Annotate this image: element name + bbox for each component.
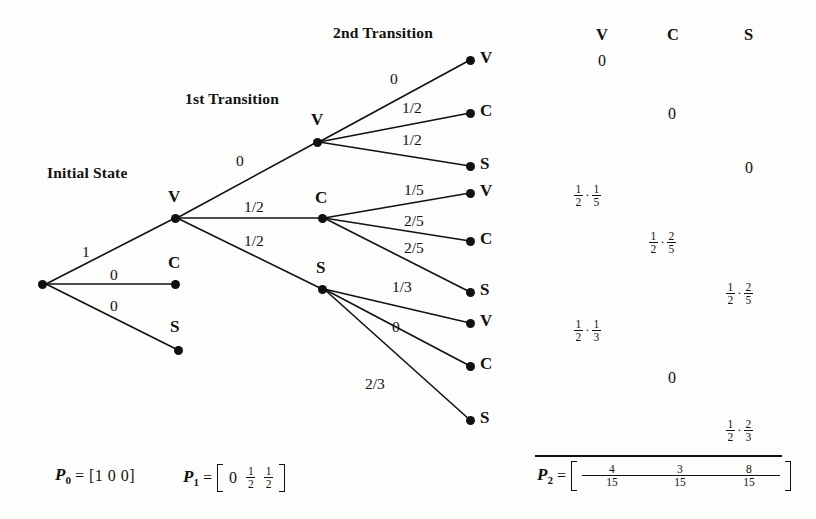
edge-label-CV: 1/5 (404, 182, 424, 198)
figure-canvas: Initial State 1st Transition 2nd Transit… (0, 0, 816, 519)
multiply-dot: · (583, 322, 592, 338)
edge-label-SV: 1/3 (392, 279, 412, 295)
edge-label-VS: 1/2 (402, 132, 422, 148)
edge-label-VV: 0 (390, 71, 398, 87)
table-cell-CV: 1 2 · 1 5 (574, 183, 601, 209)
fraction-two-thirds: 2 3 (744, 418, 753, 444)
vector-p2-entry-1: 3 15 (642, 463, 718, 489)
heading-initial-state: Initial State (47, 165, 128, 181)
leaf-label-SS: S (480, 409, 489, 426)
node-leaf-CV (466, 189, 475, 198)
equals-sign: = (553, 467, 571, 485)
fraction-fifth: 1 5 (592, 183, 601, 209)
fraction-half: 1 2 (574, 183, 583, 209)
edge-label-V-V: 0 (236, 153, 244, 169)
tree-edges (0, 0, 816, 519)
vector-p1-entry-0: 0 (229, 469, 238, 487)
edge-root-S (46, 284, 178, 350)
node-leaf-SS (466, 416, 475, 425)
node-leaf-VS (466, 162, 475, 171)
fraction-half: 1 2 (574, 318, 583, 344)
leaf-label-VS: S (480, 155, 489, 172)
node-leaf-VC (466, 109, 475, 118)
table-cell-VS: 0 (745, 160, 753, 176)
leaf-label-CV: V (480, 182, 492, 199)
node-leaf-SC (466, 362, 475, 371)
edge-label-root-C: 0 (110, 267, 118, 283)
edge-VS (319, 142, 470, 166)
edge-CV (324, 193, 470, 218)
node-root (38, 280, 47, 289)
vector-p2: P2 = 4 15 3 15 8 15 (537, 461, 791, 491)
edge-label-VC: 1/2 (402, 100, 422, 116)
state-label-l2-V: V (311, 111, 323, 128)
state-label-l1-S: S (170, 318, 179, 335)
state-label-l2-S: S (316, 259, 325, 276)
equals-sign: = (199, 469, 217, 487)
table-cell-SC: 0 (668, 370, 676, 386)
table-column-header-S: S (744, 27, 753, 44)
vector-p2-name: P2 (537, 465, 553, 486)
equals-sign: = (71, 467, 89, 485)
edge-label-V-C: 1/2 (244, 199, 264, 215)
vector-p0-name: P0 (55, 465, 71, 486)
node-leaf-VV (466, 56, 475, 65)
vector-p0: P0 = [1 0 0] (55, 465, 135, 486)
table-cell-VC: 0 (668, 106, 676, 122)
leaf-label-CC: C (480, 230, 492, 247)
leaf-label-SC: C (480, 355, 492, 372)
fraction-half: 1 2 (726, 418, 735, 444)
edge-label-root-V: 1 (82, 244, 90, 260)
edge-label-SC: 0 (392, 319, 400, 335)
table-cell-CC: 1 2 · 2 5 (649, 230, 676, 256)
node-l2-S (318, 285, 327, 294)
multiply-dot: · (735, 285, 744, 301)
edge-label-SS: 2/3 (365, 376, 385, 392)
node-l1-C (171, 280, 180, 289)
node-leaf-CC (466, 237, 475, 246)
fraction-half: 1 2 (649, 230, 658, 256)
vector-p1-entry-2: 1 2 (264, 465, 273, 491)
vector-p1-name: P1 (183, 467, 199, 488)
edge-V-S (177, 218, 322, 289)
fraction-two-fifths: 2 5 (667, 230, 676, 256)
node-leaf-CS (466, 288, 475, 297)
vector-p1-bracket: 0 1 2 1 2 (217, 464, 285, 492)
vector-p2-entry-0: 4 15 (582, 463, 642, 489)
edge-label-V-S: 1/2 (244, 233, 264, 249)
table-column-header-V: V (596, 27, 608, 44)
edge-VC (319, 113, 470, 142)
multiply-dot: · (735, 422, 744, 438)
vector-p2-bracket: 4 15 3 15 8 15 (571, 461, 791, 491)
table-summation-rule (535, 455, 782, 457)
leaf-label-SV: V (480, 312, 492, 329)
node-l2-V (313, 138, 322, 147)
node-l1-S (174, 346, 183, 355)
fraction-two-fifths: 2 5 (744, 281, 753, 307)
table-cell-SV: 1 2 · 1 3 (574, 318, 601, 344)
vector-p0-entries: [1 0 0] (89, 467, 135, 485)
vector-p1-entry-1: 1 2 (246, 465, 255, 491)
table-column-header-C: C (667, 27, 679, 44)
vector-p2-entry-2: 8 15 (718, 463, 780, 489)
node-l1-V (171, 214, 180, 223)
fraction-half: 1 2 (726, 281, 735, 307)
heading-1st-transition: 1st Transition (185, 91, 279, 107)
edge-label-CC: 2/5 (404, 213, 424, 229)
heading-2nd-transition: 2nd Transition (333, 25, 433, 41)
table-cell-SS: 1 2 · 2 3 (726, 418, 753, 444)
leaf-label-VC: C (480, 102, 492, 119)
multiply-dot: · (658, 234, 667, 250)
node-leaf-SV (466, 319, 475, 328)
fraction-third: 1 3 (592, 318, 601, 344)
node-l2-C (318, 214, 327, 223)
leaf-label-VV: V (480, 49, 492, 66)
edge-label-root-S: 0 (110, 298, 118, 314)
edge-label-CS: 2/5 (404, 240, 424, 256)
state-label-l1-C: C (168, 254, 180, 271)
table-cell-CS: 1 2 · 2 5 (726, 281, 753, 307)
leaf-label-CS: S (480, 281, 489, 298)
multiply-dot: · (583, 187, 592, 203)
state-label-l1-V: V (168, 188, 180, 205)
state-label-l2-C: C (315, 189, 327, 206)
